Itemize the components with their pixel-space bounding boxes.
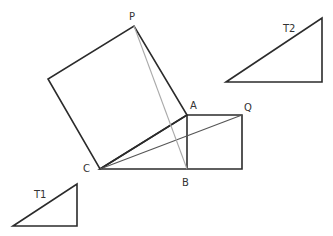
label-C: C (83, 163, 90, 174)
label-B: B (182, 177, 189, 188)
segment-PB (134, 26, 187, 169)
label-T2: T2 (282, 23, 295, 34)
label-A: A (190, 100, 197, 111)
label-T1: T1 (33, 189, 46, 200)
label-P: P (129, 11, 135, 22)
label-Q: Q (244, 102, 252, 113)
square-on-CA (48, 26, 187, 169)
triangle-T2 (226, 18, 322, 82)
segment-CQ (100, 115, 242, 169)
geometry-diagram: P A Q C B T1 T2 (0, 0, 333, 236)
